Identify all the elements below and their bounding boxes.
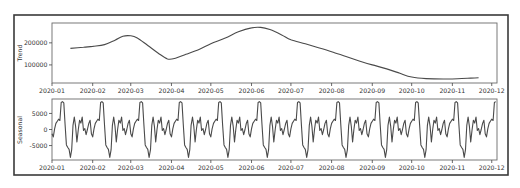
y-tick-label: 5000 bbox=[32, 110, 48, 117]
y-tick-label: -5000 bbox=[30, 142, 48, 149]
x-tick-label: 2020-02 bbox=[80, 164, 106, 171]
decomposition-figure: 100000200000 2020-012020-022020-032020-0… bbox=[0, 0, 520, 188]
x-tick-label: 2020-12 bbox=[479, 164, 505, 171]
x-tick-label: 2020-10 bbox=[399, 164, 425, 171]
x-tick-label: 2020-05 bbox=[198, 164, 224, 171]
x-tick-label: 2020-08 bbox=[319, 87, 345, 94]
x-tick-label: 2020-09 bbox=[359, 87, 385, 94]
x-tick-label: 2020-07 bbox=[278, 87, 304, 94]
x-tick-label: 2020-11 bbox=[439, 164, 465, 171]
x-tick-label: 2020-07 bbox=[278, 164, 304, 171]
trend-y-ticks: 100000200000 bbox=[24, 39, 52, 68]
x-tick-label: 2020-02 bbox=[80, 87, 106, 94]
trend-axes: 100000200000 2020-012020-022020-032020-0… bbox=[16, 23, 505, 94]
x-tick-label: 2020-01 bbox=[39, 87, 65, 94]
y-tick-label: 100000 bbox=[24, 61, 48, 68]
x-tick-label: 2020-05 bbox=[198, 87, 224, 94]
x-tick-label: 2020-03 bbox=[118, 87, 144, 94]
seasonal-y-axis-label: Seasonal bbox=[16, 116, 23, 144]
y-tick-label: 0 bbox=[44, 126, 48, 133]
trend-y-axis-label: Trend bbox=[16, 44, 23, 62]
x-tick-label: 2020-06 bbox=[239, 87, 265, 94]
seasonal-y-ticks: -500005000 bbox=[30, 110, 52, 149]
x-tick-label: 2020-03 bbox=[118, 164, 144, 171]
seasonal-axes: -500005000 2020-012020-022020-032020-042… bbox=[16, 99, 505, 171]
seasonal-x-ticks: 2020-012020-022020-032020-042020-052020-… bbox=[39, 160, 505, 171]
x-tick-label: 2020-01 bbox=[39, 164, 65, 171]
x-tick-label: 2020-12 bbox=[479, 87, 505, 94]
x-tick-label: 2020-04 bbox=[159, 164, 185, 171]
x-tick-label: 2020-04 bbox=[159, 87, 185, 94]
x-tick-label: 2020-09 bbox=[359, 164, 385, 171]
y-tick-label: 200000 bbox=[24, 39, 48, 46]
x-tick-label: 2020-10 bbox=[399, 87, 425, 94]
x-tick-label: 2020-11 bbox=[439, 87, 465, 94]
trend-x-ticks: 2020-012020-022020-032020-042020-052020-… bbox=[39, 83, 505, 94]
x-tick-label: 2020-06 bbox=[239, 164, 265, 171]
x-tick-label: 2020-08 bbox=[319, 164, 345, 171]
